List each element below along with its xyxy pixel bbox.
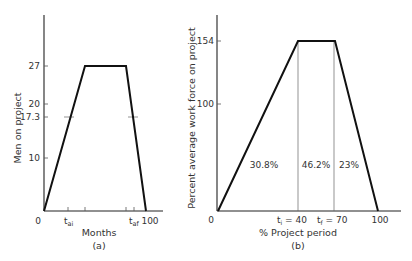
chart-b-y-label: Percent average work force on project bbox=[186, 27, 197, 209]
y-tick-10: 10 bbox=[29, 153, 41, 163]
area-label-1: 30.8% bbox=[250, 160, 279, 170]
x-tick-100-b: 100 bbox=[371, 215, 388, 225]
figure: 27 20 17.3 10 0 tai taf 100 Months (a) M… bbox=[0, 0, 412, 261]
area-label-2: 46.2% bbox=[302, 160, 331, 170]
x-tick-ti: ti = 40 bbox=[277, 215, 307, 226]
chart-a-x-label: Months bbox=[82, 227, 117, 238]
y-tick-154: 154 bbox=[197, 36, 214, 46]
y-tick-100: 100 bbox=[197, 99, 214, 109]
x-tick-tf: tf = 70 bbox=[317, 215, 348, 226]
area-label-3: 23% bbox=[339, 160, 359, 170]
chart-a-line bbox=[44, 66, 146, 211]
chart-a: 27 20 17.3 10 0 tai taf 100 Months (a) M… bbox=[12, 15, 163, 251]
x-tick-0-b: 0 bbox=[208, 215, 214, 225]
chart-a-y-label: Men on project bbox=[12, 92, 23, 163]
y-tick-27: 27 bbox=[29, 61, 40, 71]
x-tick-100: 100 bbox=[141, 216, 158, 226]
x-tick-tai: tai bbox=[64, 216, 74, 228]
chart-b: 154 100 30.8% 46.2% 23% 0 ti = 40 tf = 7… bbox=[186, 15, 401, 251]
chart-b-caption: (b) bbox=[291, 240, 304, 251]
x-tick-taf: taf bbox=[129, 216, 140, 228]
y-tick-20: 20 bbox=[29, 99, 41, 109]
chart-b-x-label: % Project period bbox=[259, 227, 337, 238]
chart-a-caption: (a) bbox=[92, 240, 105, 251]
x-tick-0: 0 bbox=[35, 216, 41, 226]
